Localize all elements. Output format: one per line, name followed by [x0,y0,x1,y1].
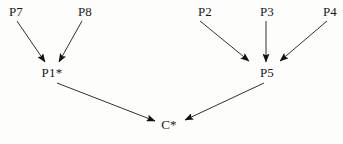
edge-arrow [59,21,82,62]
edge-arrow [17,21,45,62]
node-label-c-star: C* [161,118,177,132]
edge-arrow [200,21,249,61]
node-label-p2: P2 [198,5,212,19]
node-label-p7: P7 [9,5,23,19]
node-label-p1-star: P1* [42,66,63,80]
diagram-canvas: P7 P8 P2 P3 P4 P1* P5 C* [0,0,343,144]
node-label-p5: P5 [260,66,274,80]
node-label-p4: P4 [323,5,337,19]
edge-arrow [185,83,264,120]
edges-group [17,21,327,121]
edge-arrow [280,21,327,61]
node-label-p3: P3 [260,5,274,19]
edge-arrow [57,83,155,121]
node-label-p8: P8 [78,5,92,19]
